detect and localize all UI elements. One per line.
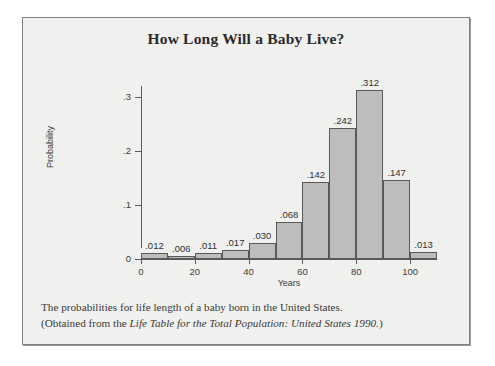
bar <box>141 253 168 259</box>
bar <box>356 90 383 259</box>
x-axis-label: Years <box>141 278 437 288</box>
plot-area: Probability 0.1.2.3 020406080100 .012.00… <box>75 64 455 286</box>
caption-line-2: (Obtained from the Life Table for the To… <box>41 315 451 331</box>
y-tick-label: .2 <box>123 145 135 156</box>
bar-value-label: .142 <box>307 169 326 180</box>
x-tick-label: 20 <box>190 266 201 277</box>
figure-caption: The probabilities for life length of a b… <box>41 299 451 331</box>
y-tick-label: .1 <box>123 199 135 210</box>
bar-value-label: .006 <box>172 243 191 254</box>
y-tick-.2: .2 <box>135 151 141 152</box>
x-tick-label: 80 <box>351 266 362 277</box>
x-tick-label: 0 <box>138 266 143 277</box>
bar-value-label: .012 <box>145 240 164 251</box>
x-tick-20 <box>195 259 196 264</box>
x-tick-label: 60 <box>297 266 308 277</box>
caption-prefix: (Obtained from the <box>41 317 130 329</box>
caption-source-title: Life Table for the Total Population: Uni… <box>130 317 379 329</box>
x-tick-label: 100 <box>402 266 418 277</box>
bar <box>195 253 222 259</box>
x-tick-100 <box>410 259 411 264</box>
y-tick-.3: .3 <box>135 97 141 98</box>
bar-value-label: .030 <box>253 230 272 241</box>
x-tick-40 <box>249 259 250 264</box>
y-tick-label: 0 <box>126 253 135 264</box>
bar <box>168 256 195 259</box>
bar <box>222 250 249 259</box>
caption-line-1: The probabilities for life length of a b… <box>41 299 451 315</box>
y-tick-.1: .1 <box>135 205 141 206</box>
figure-frame: How Long Will a Baby Live? Probability 0… <box>22 17 470 345</box>
y-tick-label: .3 <box>123 91 135 102</box>
x-axis-line <box>141 259 437 260</box>
y-axis-label: Probability <box>45 126 55 168</box>
chart-title: How Long Will a Baby Live? <box>23 30 469 48</box>
caption-suffix: ) <box>379 317 383 329</box>
bar <box>276 222 303 259</box>
bar-value-label: .068 <box>280 209 299 220</box>
bar-value-label: .242 <box>334 115 353 126</box>
bar <box>249 243 276 259</box>
y-axis-line <box>141 86 142 248</box>
bar <box>329 128 356 259</box>
x-tick-label: 40 <box>243 266 254 277</box>
bar-value-label: .312 <box>360 77 379 88</box>
bar-value-label: .017 <box>226 237 245 248</box>
bar <box>383 180 410 259</box>
x-tick-60 <box>302 259 303 264</box>
bar-value-label: .013 <box>414 239 433 250</box>
bar-value-label: .147 <box>387 167 406 178</box>
bar-value-label: .011 <box>199 240 217 251</box>
x-tick-0 <box>141 259 142 264</box>
bar <box>302 182 329 259</box>
bar <box>410 252 437 259</box>
x-tick-80 <box>356 259 357 264</box>
